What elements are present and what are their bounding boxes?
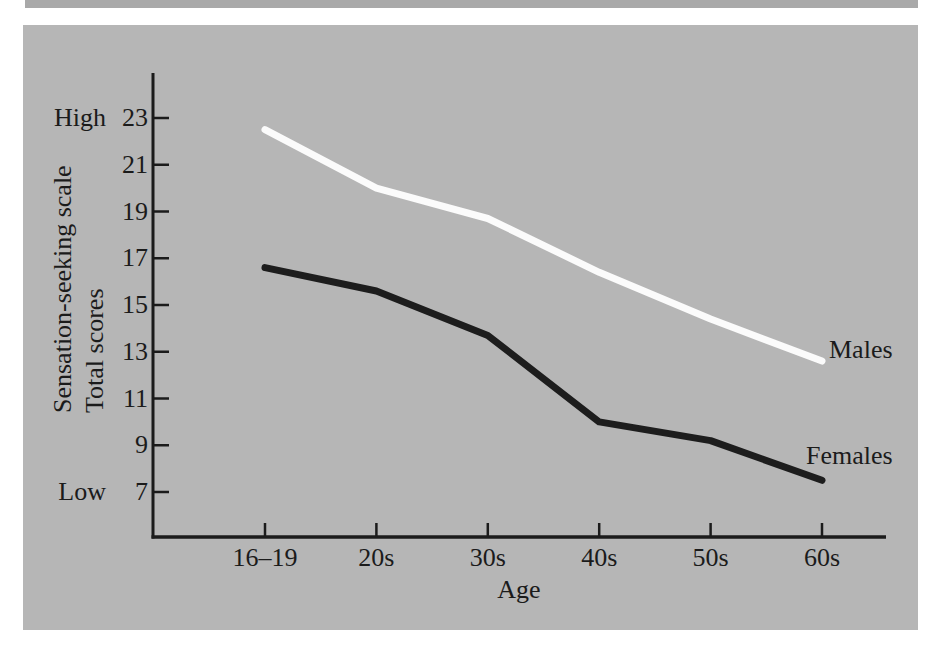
y-tick-label: 15 [104,292,148,318]
males-line [265,130,822,361]
x-tick-label: 20s [316,545,436,571]
y-tick-label: 17 [104,245,148,271]
x-tick-label: 30s [428,545,548,571]
x-tick-label: 40s [539,545,659,571]
data-series-lines [265,130,822,481]
females-series-label: Females [806,443,893,469]
y-axis-low-label: Low [38,479,106,505]
y-tick-label: 19 [104,199,148,225]
y-tick-label: 23 [104,105,148,131]
axes [152,73,887,539]
y-tick-label: 7 [104,479,148,505]
figure-page: High Low Sensation-seeking scale Total s… [0,0,939,658]
y-axis-title-line1: Sensation-seeking scale [50,165,76,413]
x-tick-label: 60s [762,545,882,571]
y-axis-high-label: High [38,105,106,131]
x-axis-title: Age [459,577,579,603]
tick-marks [154,118,822,537]
males-series-label: Males [829,337,893,363]
y-tick-label: 21 [104,152,148,178]
x-tick-label: 50s [651,545,771,571]
x-tick-label: 16–19 [205,545,325,571]
y-tick-label: 13 [104,339,148,365]
females-line [265,268,822,481]
y-tick-label: 9 [104,432,148,458]
y-tick-label: 11 [104,386,148,412]
